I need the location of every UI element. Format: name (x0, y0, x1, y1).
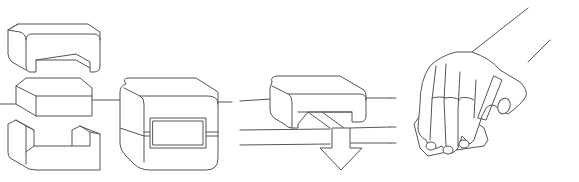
core-center-block (16, 78, 92, 116)
fingernail (459, 140, 469, 148)
step-1-exploded-view (0, 24, 120, 170)
step-3-press-down (240, 76, 390, 170)
cable-line (350, 127, 390, 128)
fingernail (443, 146, 453, 154)
cable-line (240, 129, 330, 130)
down-arrow-icon (320, 128, 362, 170)
step-4-hand-squeeze (390, 8, 550, 156)
ferrite-core-installation-diagram (0, 0, 579, 182)
cable-line (240, 144, 330, 145)
cable-line (240, 99, 271, 101)
fingernail (426, 142, 436, 150)
core-bottom-half (8, 120, 100, 170)
core-window (150, 118, 206, 148)
forearm (472, 8, 550, 62)
core-top-half (8, 24, 100, 72)
step-2-assembled-core (120, 78, 232, 170)
